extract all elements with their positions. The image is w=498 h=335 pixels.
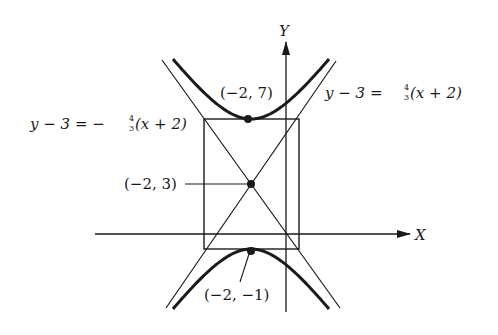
- asymptote-negative-label: y − 3 = − 4 3 (x + 2): [29, 114, 187, 133]
- asymptote-positive-denominator: 3: [404, 93, 409, 102]
- center-point: [247, 180, 255, 188]
- hyperbola-figure: Y X (−2, 7) (−2, 3) (−2, −1) y − 3 = 4 3…: [0, 0, 498, 335]
- center-label: (−2, 3): [124, 175, 177, 193]
- lower-vertex-leader-line: [240, 254, 249, 282]
- asymptote-positive-lhs: y − 3 =: [324, 84, 387, 102]
- y-axis-label: Y: [279, 22, 291, 40]
- asymptote-negative-rhs: (x + 2): [135, 115, 187, 133]
- asymptote-positive-rhs: (x + 2): [410, 84, 462, 102]
- vertex-lower-point: [247, 247, 255, 255]
- asymptote-negative-lhs: y − 3 = −: [29, 115, 110, 133]
- vertex-upper-point: [244, 115, 252, 123]
- vertex-upper-label: (−2, 7): [220, 84, 273, 102]
- asymptote-negative-denominator: 3: [129, 124, 134, 133]
- asymptote-negative-numerator: 4: [129, 114, 134, 123]
- asymptote-positive-numerator: 4: [404, 83, 409, 92]
- asymptote-positive-label: y − 3 = 4 3 (x + 2): [324, 83, 462, 102]
- vertex-lower-label: (−2, −1): [204, 286, 269, 304]
- x-axis-label: X: [414, 226, 427, 244]
